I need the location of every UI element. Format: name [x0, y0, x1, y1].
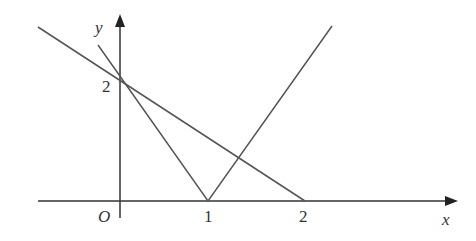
- x-tick-1: 1: [204, 207, 213, 226]
- y-axis-arrow-icon: [115, 14, 125, 27]
- origin-label: O: [98, 207, 110, 226]
- coordinate-diagram: y 2 O 1 2 x: [0, 0, 476, 241]
- line-decreasing: [38, 27, 305, 201]
- v-shape-line: [98, 26, 332, 201]
- y-tick-2: 2: [102, 77, 111, 96]
- y-axis-label: y: [93, 18, 103, 37]
- plot-svg: y 2 O 1 2 x: [0, 0, 476, 241]
- x-tick-2: 2: [299, 207, 308, 226]
- x-axis-arrow-icon: [445, 196, 458, 206]
- x-axis-label: x: [441, 210, 450, 229]
